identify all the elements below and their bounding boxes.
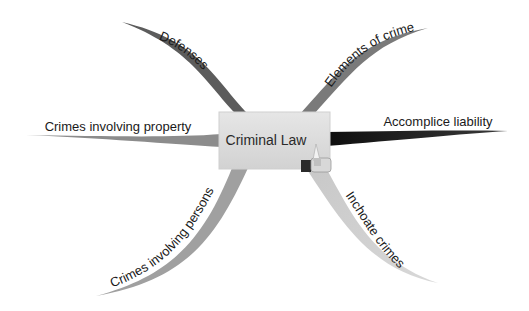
central-topic-label: Criminal Law: [226, 132, 308, 148]
branch-label-accomplice-liability: Accomplice liability: [383, 114, 493, 129]
branch-crimes-involving-property: [26, 134, 222, 147]
branch-defenses: [122, 22, 248, 114]
branch-label-defenses: Defenses: [157, 28, 212, 72]
branch-label-crimes-involving-property: Crimes involving property: [45, 119, 192, 134]
branch-accomplice-liability: [326, 131, 508, 146]
mind-map-canvas: Defenses Elements of crime Accomplice li…: [0, 0, 529, 311]
